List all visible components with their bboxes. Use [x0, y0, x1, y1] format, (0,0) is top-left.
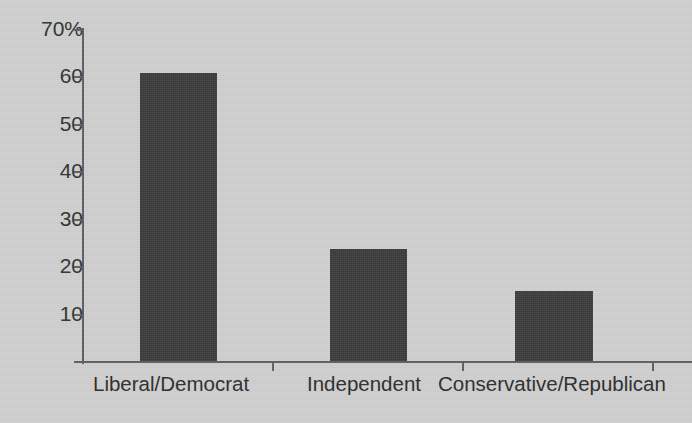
x-axis-line: [74, 361, 692, 363]
y-tick-mark-30: [74, 219, 83, 221]
y-tick-mark-20: [74, 266, 83, 268]
x-tick-mark-2: [462, 363, 464, 371]
y-tick-30: 30: [0, 219, 83, 221]
y-tick-70: 70%: [0, 29, 83, 31]
y-tick-10: 10: [0, 314, 83, 316]
bar-conservative-republican: [515, 291, 593, 361]
x-tick-mark-1: [272, 363, 274, 371]
y-tick-60: 60: [0, 76, 83, 78]
y-tick-mark-70: [74, 29, 83, 31]
x-category-label-conservative-republican: Conservative/Republican: [438, 372, 666, 396]
y-tick-20: 20: [0, 266, 83, 268]
x-category-label-independent: Independent: [307, 372, 421, 396]
y-tick-mark-40: [74, 171, 83, 173]
y-tick-50: 50: [0, 124, 83, 126]
bar-chart: 70% 60 50 40 30 20 10 Liberal/Democrat I…: [0, 0, 692, 423]
x-tick-mark-3: [652, 363, 654, 371]
y-tick-40: 40: [0, 171, 83, 173]
x-category-label-liberal-democrat: Liberal/Democrat: [93, 372, 249, 396]
bar-independent: [330, 249, 407, 361]
y-tick-mark-60: [74, 76, 83, 78]
y-tick-mark-50: [74, 124, 83, 126]
bar-liberal-democrat: [140, 73, 217, 361]
y-tick-mark-10: [74, 314, 83, 316]
